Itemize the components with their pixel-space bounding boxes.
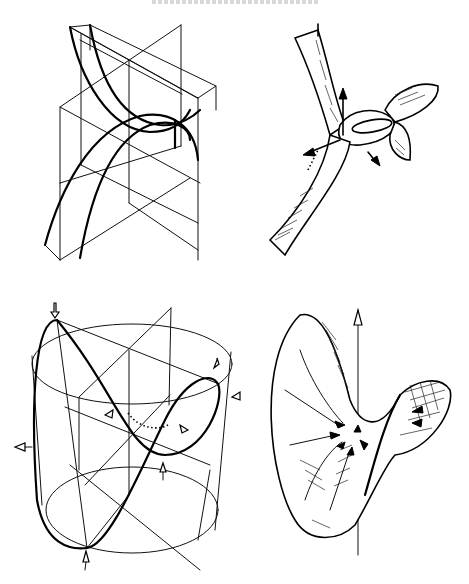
axis-arrow-icon — [354, 310, 362, 325]
saddle-surface-diagram — [260, 290, 469, 584]
figure-bottom-right — [260, 290, 469, 584]
normal-arrow-icon — [339, 88, 347, 99]
figure-top-right — [240, 0, 469, 270]
figure-bottom-left — [0, 290, 260, 584]
cylinder-curve-diagram — [0, 290, 260, 584]
wireframe-planes-diagram — [0, 0, 240, 270]
figure-top-left — [0, 0, 240, 270]
twisted-ribbon-diagram — [240, 0, 469, 270]
